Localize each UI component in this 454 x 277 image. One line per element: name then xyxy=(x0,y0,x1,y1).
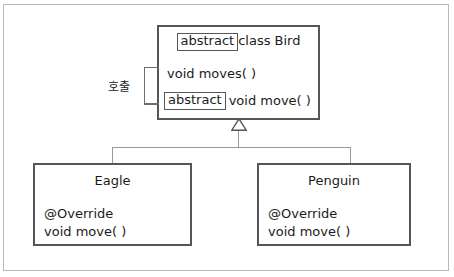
eagle-title: Eagle xyxy=(35,173,190,188)
bird-method-move-row: abstract void move( ) xyxy=(164,92,311,110)
call-bracket-stub-top xyxy=(144,67,159,68)
generalization-drop-eagle xyxy=(112,147,113,164)
call-bracket-stub-bottom xyxy=(144,103,159,104)
penguin-method-move: void move( ) xyxy=(268,223,350,241)
eagle-override-annotation: @Override xyxy=(44,205,126,223)
generalization-vertical-line xyxy=(238,131,239,148)
bird-title-row: abstractclass Bird xyxy=(159,33,318,51)
penguin-title: Penguin xyxy=(259,173,409,188)
uml-class-diagram: abstractclass Bird void moves( ) abstrac… xyxy=(0,0,454,277)
bird-method-moves: void moves( ) xyxy=(167,66,256,81)
class-box-penguin[interactable]: Penguin @Override void move( ) xyxy=(257,163,411,246)
eagle-members: @Override void move( ) xyxy=(44,205,126,240)
eagle-method-move: void move( ) xyxy=(44,223,126,241)
bird-class-title: class Bird xyxy=(238,33,300,48)
generalization-drop-penguin xyxy=(350,147,351,164)
penguin-members: @Override void move( ) xyxy=(268,205,350,240)
bird-method-move: void move( ) xyxy=(229,93,311,108)
call-bracket xyxy=(144,67,158,105)
abstract-keyword-method: abstract xyxy=(164,92,226,110)
abstract-keyword-class: abstract xyxy=(177,33,239,51)
penguin-override-annotation: @Override xyxy=(268,205,350,223)
class-box-eagle[interactable]: Eagle @Override void move( ) xyxy=(33,163,192,246)
generalization-horizontal-line xyxy=(112,147,351,148)
generalization-triangle-icon xyxy=(231,118,247,131)
class-box-bird[interactable]: abstractclass Bird void moves( ) abstrac… xyxy=(157,25,320,120)
call-annotation-label: 호출 xyxy=(108,77,130,94)
